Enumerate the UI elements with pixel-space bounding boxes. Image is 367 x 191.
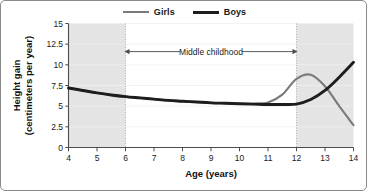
x-tick-label: 10 xyxy=(235,153,245,163)
x-axis: 4567891011121314 xyxy=(66,148,358,164)
chart-figure: Girls Boys 02.557.51012.515 456789101112… xyxy=(0,0,367,191)
y-axis: 02.557.51012.515 xyxy=(46,19,68,153)
annotation-label: Middle childhood xyxy=(179,47,243,57)
plot-area: 02.557.51012.515 4567891011121314 Middle… xyxy=(1,1,367,191)
x-tick-label: 13 xyxy=(320,153,330,163)
y-tick-label: 15 xyxy=(54,19,64,29)
x-tick-label: 14 xyxy=(349,153,359,163)
x-tick-label: 6 xyxy=(123,153,128,163)
x-tick-label: 7 xyxy=(152,153,157,163)
x-tick-label: 5 xyxy=(95,153,100,163)
line-chart-svg: 02.557.51012.515 4567891011121314 Middle… xyxy=(1,1,367,191)
y-tick-label: 2.5 xyxy=(51,122,63,132)
x-tick-label: 4 xyxy=(66,153,71,163)
x-tick-label: 8 xyxy=(180,153,185,163)
y-tick-label: 7.5 xyxy=(51,81,63,91)
y-tick-label: 5 xyxy=(58,101,63,111)
y-axis-title-line1: Height gain xyxy=(11,59,22,111)
x-axis-ticks xyxy=(69,148,354,152)
middle-childhood-annotation: Middle childhood xyxy=(125,46,298,58)
y-tick-label: 0 xyxy=(58,143,63,153)
x-tick-label: 11 xyxy=(264,153,273,163)
y-tick-label: 12.5 xyxy=(46,39,63,49)
y-axis-tick-labels: 02.557.51012.515 xyxy=(46,19,63,153)
y-axis-title-line2: (centimeters per year) xyxy=(23,36,34,135)
x-tick-label: 9 xyxy=(209,153,214,163)
x-tick-label: 12 xyxy=(292,153,302,163)
x-axis-tick-labels: 4567891011121314 xyxy=(66,153,358,163)
y-tick-label: 10 xyxy=(54,60,64,70)
x-axis-title: Age (years) xyxy=(185,168,237,179)
